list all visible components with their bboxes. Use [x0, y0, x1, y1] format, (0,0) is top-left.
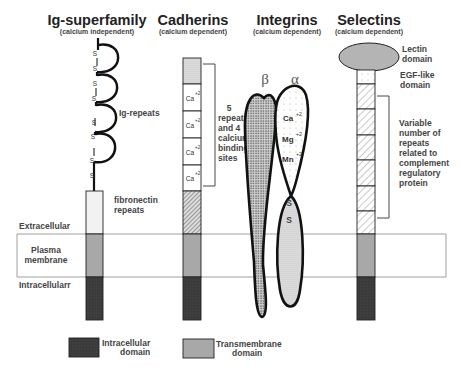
adhesion-molecule-diagram: Extracellular Plasma membrane Intracellu…: [0, 0, 462, 373]
selectin-note: regulatory: [399, 168, 441, 178]
alpha-label: α: [291, 71, 299, 87]
disulfide-s: S: [92, 119, 97, 126]
integrin-charge-ca: +2: [296, 111, 302, 117]
selectin-transmembrane-domain: [357, 234, 375, 277]
disulfide-s: S: [93, 50, 98, 57]
subtitle-selectins: (calcium dependent): [335, 28, 403, 36]
egf-like-domain: [357, 70, 375, 84]
plasma-membrane-band: [17, 234, 446, 277]
ig-loop-3: [95, 105, 116, 133]
subtitle-cadherins: (calcium dependent): [159, 28, 227, 36]
ig-repeats-label: Ig-repeats: [119, 108, 160, 118]
legend-transmembrane-line2: domain: [232, 348, 262, 358]
integrin-alpha-stalk: [277, 196, 302, 307]
disulfide-s: S: [90, 157, 95, 164]
lectin-label-line1: Lectin: [402, 44, 427, 54]
selectin-note: protein: [399, 178, 428, 188]
ig-superfamily-molecule: [94, 38, 118, 191]
ca-ion-1: Ca: [186, 95, 195, 102]
selectin-note: number of: [399, 128, 441, 138]
integrin-beta-subunit: [245, 95, 276, 317]
ca-charge-1: +2: [195, 91, 201, 96]
membrane-label-line2: membrane: [25, 255, 68, 265]
disulfide-s: S: [93, 80, 98, 87]
integrin-disulfide-s: S: [286, 215, 292, 225]
cadherin-note: sites: [218, 153, 238, 163]
subtitle-integrins: (calcium dependent): [253, 28, 321, 36]
ca-charge-2: +2: [195, 118, 201, 123]
integrin-ion-mg: Mg: [282, 135, 294, 144]
selectin-note: repeats: [399, 138, 430, 148]
cadherin-transmembrane-domain: [183, 234, 201, 277]
disulfide-s: S: [92, 95, 97, 102]
legend-intracellular-line2: domain: [120, 347, 150, 357]
disulfide-s: S: [90, 172, 95, 179]
ig-loop-1: [97, 45, 118, 73]
integrin-disulfide-s: S: [286, 198, 292, 208]
cadherin-note: binding: [218, 143, 249, 153]
ca-ion-2: Ca: [186, 122, 195, 129]
selectin-molecule: [339, 43, 399, 320]
egf-label-line1: EGF-like: [400, 70, 435, 80]
ca-ion-4: Ca: [186, 175, 195, 182]
ig-loop-2: [96, 75, 117, 103]
disulfide-s: S: [93, 65, 98, 72]
cadherin-note: and 4: [218, 123, 240, 133]
beta-label: β: [261, 71, 269, 87]
intracellular-label: Intracellularr: [19, 280, 71, 290]
lectin-label-line2: domain: [402, 54, 432, 64]
selectin-note: complement: [399, 158, 449, 168]
lectin-domain: [339, 43, 399, 71]
integrin-ion-ca: Ca: [283, 114, 294, 123]
legend-swatch-transmembrane: [183, 339, 214, 358]
title-ig-superfamily: Ig-superfamily: [47, 12, 146, 28]
integrin-molecule: [245, 86, 308, 317]
selectin-intracellular-domain: [357, 277, 375, 320]
fibronectin-repeats-box: [86, 191, 103, 234]
integrin-ion-mn: Mn: [282, 155, 294, 164]
subtitle-ig-superfamily: (calcium independent): [60, 28, 134, 36]
title-cadherins: Cadherins: [158, 12, 229, 28]
title-selectins: Selectins: [337, 12, 401, 28]
cadherin-bracket: [203, 64, 215, 186]
selectin-note: Variable: [399, 118, 432, 128]
title-integrins: Integrins: [256, 12, 317, 28]
egf-label-line2: domain: [400, 80, 430, 90]
cadherin-intracellular-domain: [183, 277, 201, 320]
cadherin-note: 5: [227, 103, 232, 113]
ig-loop-4: [94, 134, 115, 163]
extracellular-label: Extracellular: [19, 221, 71, 231]
fibronectin-label-line2: repeats: [114, 205, 145, 215]
selectin-bracket: [377, 96, 389, 218]
selectin-note: related to: [399, 148, 437, 158]
ca-charge-3: +2: [195, 145, 201, 150]
fibronectin-label-line1: fibronectin: [114, 195, 158, 205]
membrane-label-line1: Plasma: [31, 245, 61, 255]
integrin-charge-mn: +2: [296, 151, 302, 157]
integrin-charge-mg: +2: [296, 131, 302, 137]
legend-swatch-intracellular: [69, 338, 99, 357]
ig-transmembrane-domain: [86, 234, 103, 277]
ca-charge-4: +2: [195, 171, 201, 176]
ca-ion-3: Ca: [186, 149, 195, 156]
disulfide-s: S: [91, 133, 96, 140]
ig-intracellular-domain: [86, 277, 103, 320]
